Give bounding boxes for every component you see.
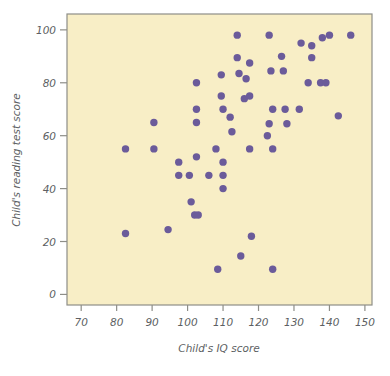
x-tick-label: 120 — [248, 316, 268, 328]
scatter-point — [164, 226, 171, 233]
scatter-point — [122, 230, 129, 237]
x-tick-label: 140 — [319, 316, 339, 328]
scatter-point — [193, 106, 200, 113]
scatter-point — [175, 172, 182, 179]
scatter-point — [186, 172, 193, 179]
scatter-point — [281, 106, 288, 113]
x-tick-label: 110 — [213, 316, 233, 328]
scatter-point — [246, 145, 253, 152]
y-tick-label: 80 — [43, 77, 57, 89]
scatter-point — [219, 106, 226, 113]
x-tick-label: 70 — [74, 316, 88, 328]
scatter-point — [264, 132, 271, 139]
scatter-point — [280, 67, 287, 74]
scatter-point — [212, 145, 219, 152]
scatter-point — [218, 92, 225, 99]
scatter-point — [297, 39, 304, 46]
x-tick-label: 90 — [145, 316, 159, 328]
scatter-point — [308, 42, 315, 49]
scatter-point — [347, 31, 354, 38]
scatter-point — [265, 120, 272, 127]
scatter-point — [322, 79, 329, 86]
scatter-point — [219, 158, 226, 165]
y-axis-ticks — [60, 30, 67, 295]
y-axis-tick-labels: 020406080100 — [36, 24, 56, 301]
scatter-point — [219, 185, 226, 192]
x-axis-tick-labels: 708090100110120130140150 — [74, 316, 375, 328]
y-tick-label: 0 — [49, 288, 56, 300]
x-tick-label: 150 — [355, 316, 375, 328]
scatter-point — [265, 31, 272, 38]
scatter-point — [269, 145, 276, 152]
scatter-point — [226, 113, 233, 120]
scatter-point — [296, 106, 303, 113]
scatter-plot-figure: 708090100110120130140150 020406080100 Ch… — [0, 0, 390, 376]
scatter-point — [326, 31, 333, 38]
scatter-point — [175, 158, 182, 165]
scatter-point — [214, 266, 221, 273]
scatter-point — [193, 79, 200, 86]
scatter-point — [187, 198, 194, 205]
scatter-point — [218, 71, 225, 78]
scatter-point — [278, 53, 285, 60]
scatter-point — [234, 54, 241, 61]
x-tick-label: 130 — [284, 316, 304, 328]
y-tick-label: 100 — [36, 24, 56, 36]
y-tick-label: 40 — [43, 183, 57, 195]
x-axis-title: Child's IQ score — [178, 342, 259, 354]
scatter-point — [242, 75, 249, 82]
x-tick-label: 80 — [110, 316, 124, 328]
y-tick-label: 60 — [43, 130, 57, 142]
x-axis-ticks — [81, 305, 365, 311]
scatter-point — [205, 172, 212, 179]
scatter-point — [246, 92, 253, 99]
x-tick-label: 100 — [178, 316, 198, 328]
scatter-point — [304, 79, 311, 86]
scatter-point — [237, 252, 244, 259]
scatter-point — [308, 54, 315, 61]
plot-background — [67, 14, 372, 305]
scatter-point — [269, 106, 276, 113]
scatter-plot-canvas: 708090100110120130140150 020406080100 Ch… — [0, 0, 390, 376]
scatter-point — [283, 120, 290, 127]
scatter-point — [248, 233, 255, 240]
scatter-point — [228, 128, 235, 135]
scatter-point — [150, 145, 157, 152]
scatter-point — [219, 172, 226, 179]
scatter-point — [122, 145, 129, 152]
scatter-point — [234, 31, 241, 38]
scatter-point — [269, 266, 276, 273]
scatter-point — [267, 67, 274, 74]
scatter-point — [319, 34, 326, 41]
scatter-point — [246, 59, 253, 66]
scatter-point — [150, 119, 157, 126]
y-tick-label: 20 — [43, 236, 57, 248]
y-axis-title: Child's reading test score — [10, 93, 22, 227]
scatter-point — [335, 112, 342, 119]
scatter-point — [193, 153, 200, 160]
scatter-point — [195, 211, 202, 218]
scatter-point — [193, 119, 200, 126]
scatter-point — [235, 70, 242, 77]
